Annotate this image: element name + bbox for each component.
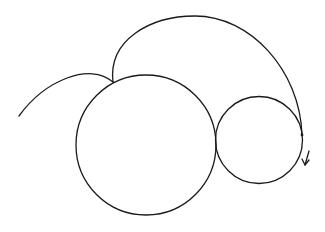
direction-arrow-icon: [302, 151, 309, 165]
tracing-point: [301, 134, 304, 137]
left-trajectory-arc: [19, 74, 113, 116]
epicycloid-diagram: [0, 0, 325, 232]
small-rolling-circle: [216, 97, 303, 184]
large-fixed-circle: [76, 75, 216, 215]
